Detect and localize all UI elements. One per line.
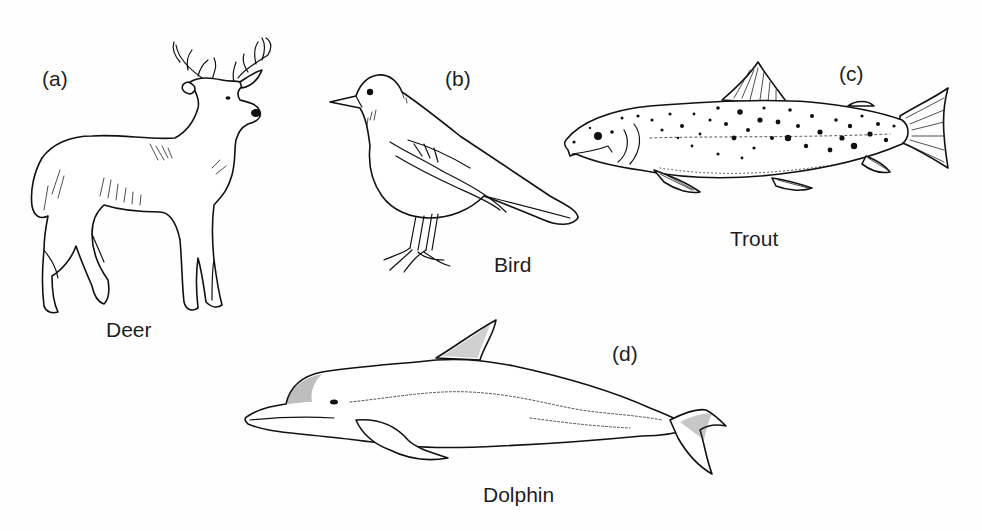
- dolphin-drawing-icon: [230, 310, 750, 529]
- deer-drawing-icon: [0, 0, 320, 344]
- trout-drawing-icon: [550, 50, 970, 264]
- animal-illustration-figure: (a) Deer (b) Bird: [0, 0, 982, 531]
